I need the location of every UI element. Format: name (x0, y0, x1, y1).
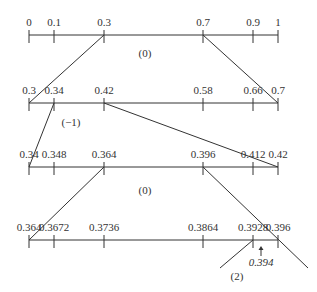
tick-label: 0.348 (42, 148, 67, 160)
tick-label: 0.3672 (39, 221, 69, 233)
level-annotation: (−1) (61, 116, 80, 129)
tick-label: 1 (275, 16, 281, 28)
tick-label: 0.7 (271, 84, 285, 96)
zoom-connector-line (203, 167, 308, 268)
tick-label: 0.3928 (238, 221, 269, 233)
level-annotation: (2) (231, 270, 244, 283)
tick-label: 0.42 (268, 148, 287, 160)
tick-label: 0.396 (191, 148, 216, 160)
tick-label: 0.58 (193, 84, 213, 96)
tick-label: 0.42 (94, 84, 113, 96)
tick-label: 0.1 (47, 16, 61, 28)
number-line-level-1: 00.10.30.70.91(0) (26, 16, 281, 60)
tick-label: 0.364 (92, 148, 117, 160)
tick-label: 0.9 (246, 16, 260, 28)
number-line-level-4: 0.3640.36720.37360.38640.39280.396(2) (17, 221, 291, 283)
tick-label: 0.7 (196, 16, 210, 28)
interval-subdivision-diagram: 00.10.30.70.91(0)0.30.340.420.580.660.7(… (0, 0, 317, 292)
tick-label: 0.3736 (89, 221, 120, 233)
zoom-connector-line (29, 35, 104, 103)
target-value-label: 0.394 (249, 256, 274, 268)
level-annotation: (0) (139, 184, 152, 197)
zoom-connector-line (203, 35, 278, 103)
connectors-layer (29, 35, 308, 268)
tick-label: 0 (26, 16, 32, 28)
number-line-level-2: 0.30.340.420.580.660.7(−1) (22, 84, 285, 129)
arrow-up-icon (259, 246, 264, 250)
tick-label: 0.3864 (188, 221, 219, 233)
tick-label: 0.66 (243, 84, 263, 96)
tick-label: 0.3 (22, 84, 36, 96)
level-annotation: (0) (139, 47, 152, 60)
tick-label: 0.3 (97, 16, 111, 28)
marker-layer: 0.394 (249, 246, 274, 268)
